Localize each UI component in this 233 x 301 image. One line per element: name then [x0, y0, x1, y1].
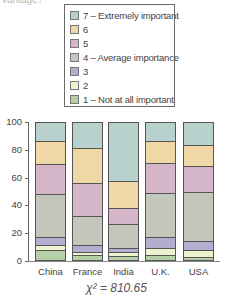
x-category-label: U.K. — [141, 266, 181, 277]
bar-segment — [73, 183, 102, 216]
bar-segment — [146, 193, 175, 237]
legend-swatch-icon — [70, 39, 79, 48]
bar-segment — [36, 164, 65, 194]
x-category-label: China — [31, 266, 71, 277]
cropped-question-text: vantage? — [2, 0, 43, 5]
y-tick-label: 60 — [0, 172, 22, 183]
legend-item: 2 — [70, 79, 88, 92]
bar-segment — [184, 123, 213, 145]
bar-uk — [145, 122, 176, 261]
legend-label: 2 — [83, 80, 88, 91]
bar-segment — [184, 241, 213, 251]
legend-label: 1 – Not at all important — [83, 94, 174, 105]
legend-label: 3 — [83, 66, 88, 77]
legend-swatch-icon — [70, 95, 79, 104]
bar-segment — [146, 123, 175, 141]
bar-segment — [36, 194, 65, 236]
legend-item: 5 — [70, 37, 88, 50]
y-tick — [25, 178, 29, 179]
legend-swatch-icon — [70, 53, 79, 62]
bar-segment — [184, 166, 213, 192]
y-tick-label: 40 — [0, 199, 22, 210]
legend-label: 5 — [83, 38, 88, 49]
chart-legend: 7 – Extremely important654 – Average imp… — [64, 4, 175, 107]
bar-france — [72, 122, 103, 261]
legend-item: 6 — [70, 23, 88, 36]
bar-segment — [184, 145, 213, 166]
bar-segment — [109, 181, 138, 208]
bar-segment — [184, 257, 213, 260]
bar-segment — [73, 216, 102, 245]
legend-swatch-icon — [70, 25, 79, 34]
x-category-label: India — [104, 266, 144, 277]
y-tick-label: 80 — [0, 144, 22, 155]
bar-usa — [183, 122, 214, 261]
x-category-label: USA — [179, 266, 219, 277]
y-tick-label: 20 — [0, 227, 22, 238]
y-tick — [25, 122, 29, 123]
bar-segment — [184, 192, 213, 241]
legend-swatch-icon — [70, 11, 79, 20]
x-axis-line — [28, 261, 220, 262]
legend-swatch-icon — [70, 67, 79, 76]
legend-item: 3 — [70, 65, 88, 78]
bar-segment — [36, 123, 65, 141]
bar-segment — [36, 250, 65, 260]
legend-item: 4 – Average importance — [70, 51, 179, 64]
x-category-label: France — [68, 266, 108, 277]
y-tick — [25, 205, 29, 206]
bar-segment — [146, 237, 175, 248]
legend-swatch-icon — [70, 81, 79, 90]
chi-square-statistic: χ² = 810.65 — [0, 281, 233, 295]
legend-item: 1 – Not at all important — [70, 93, 174, 106]
bar-segment — [146, 141, 175, 163]
bar-segment — [184, 250, 213, 257]
bar-india — [108, 122, 139, 261]
y-tick-label: 100 — [0, 116, 22, 127]
bar-segment — [146, 163, 175, 193]
bar-segment — [73, 148, 102, 184]
y-tick — [25, 150, 29, 151]
bar-segment — [36, 237, 65, 245]
legend-label: 6 — [83, 24, 88, 35]
bar-segment — [146, 248, 175, 255]
legend-label: 4 – Average importance — [83, 52, 179, 63]
bar-segment — [109, 123, 138, 181]
y-tick — [25, 233, 29, 234]
bar-china — [35, 122, 66, 261]
y-tick-label: 0 — [0, 255, 22, 266]
bar-segment — [146, 255, 175, 260]
y-axis-line — [28, 122, 29, 262]
bar-segment — [73, 245, 102, 252]
legend-item: 7 – Extremely important — [70, 9, 179, 22]
bar-segment — [36, 141, 65, 164]
bar-segment — [73, 255, 102, 260]
bar-segment — [109, 224, 138, 247]
bar-segment — [73, 123, 102, 148]
bar-segment — [109, 256, 138, 260]
legend-label: 7 – Extremely important — [83, 10, 179, 21]
bar-segment — [109, 208, 138, 224]
